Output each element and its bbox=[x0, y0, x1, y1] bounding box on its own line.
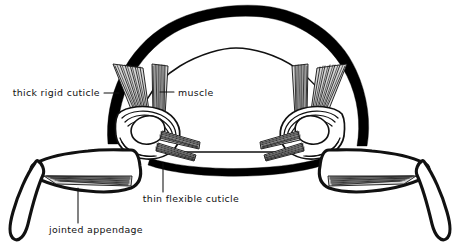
diagram-canvas: Arthropod body cross-section with jointe… bbox=[0, 0, 460, 243]
label-text-thick-rigid-cuticle: thick rigid cuticle bbox=[13, 87, 100, 98]
appendage-left-segment-distal bbox=[10, 161, 44, 240]
label-text-thin-flexible-cuticle: thin flexible cuticle bbox=[143, 193, 239, 204]
arthropod-cross-section-figure: Arthropod body cross-section with jointe… bbox=[0, 0, 460, 243]
label-thick-rigid-cuticle: thick rigid cuticle bbox=[13, 87, 119, 98]
appendage-right-segment-distal bbox=[416, 161, 450, 240]
label-text-jointed-appendage: jointed appendage bbox=[48, 224, 143, 235]
label-jointed-appendage: jointed appendage bbox=[48, 188, 143, 235]
label-muscle: muscle bbox=[160, 87, 214, 98]
thick-rigid-cuticle-ventral bbox=[148, 158, 324, 176]
ventral-shell-shape bbox=[148, 158, 324, 176]
label-text-muscle: muscle bbox=[178, 87, 214, 98]
